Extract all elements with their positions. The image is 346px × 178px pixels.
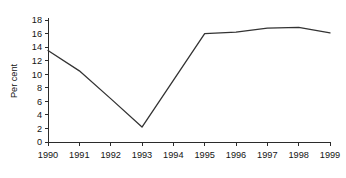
y-tick-label: 12 <box>32 56 42 66</box>
y-tick-label: 18 <box>32 15 42 25</box>
x-axis-tick-labels: 1990199119921993199419951996199719981999 <box>38 150 340 160</box>
y-tick-label: 14 <box>32 42 42 52</box>
x-tick-label: 1990 <box>38 150 58 160</box>
chart-plot-area: 024681012141618 199019911992199319941995… <box>0 0 346 178</box>
y-tick-label: 16 <box>32 29 42 39</box>
x-tick-label: 1999 <box>320 150 340 160</box>
x-tick-label: 1992 <box>100 150 120 160</box>
line-chart: 024681012141618 199019911992199319941995… <box>0 0 346 178</box>
y-axis-title: Per cent <box>9 63 19 98</box>
y-tick-label: 0 <box>37 137 42 147</box>
y-tick-label: 10 <box>32 70 42 80</box>
y-tick-label: 8 <box>37 83 42 93</box>
x-tick-label: 1993 <box>132 150 152 160</box>
x-tick-label: 1997 <box>257 150 277 160</box>
x-tick-label: 1995 <box>194 150 214 160</box>
y-tick-label: 2 <box>37 124 42 134</box>
x-axis-tick-marks <box>48 142 330 146</box>
x-tick-label: 1991 <box>69 150 89 160</box>
y-tick-label: 6 <box>37 97 42 107</box>
y-tick-label: 4 <box>37 110 42 120</box>
x-tick-label: 1998 <box>288 150 308 160</box>
data-series-line <box>48 27 330 127</box>
x-tick-label: 1994 <box>163 150 183 160</box>
y-axis-tick-labels: 024681012141618 <box>32 15 42 147</box>
x-tick-label: 1996 <box>226 150 246 160</box>
